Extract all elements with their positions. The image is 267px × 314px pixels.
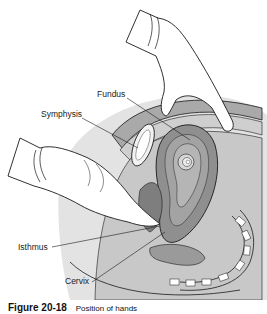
anatomical-illustration: Fundus Symphysis Isthmus Cervix Figure 2… [0, 0, 267, 314]
bimanual-exam-drawing [0, 0, 267, 300]
caption-number: Figure 20-18 [8, 302, 67, 313]
label-cervix: Cervix [65, 277, 89, 286]
figure-caption: Figure 20-18 Position of hands [8, 303, 137, 313]
label-isthmus: Isthmus [18, 243, 48, 252]
label-fundus: Fundus [97, 90, 125, 99]
caption-text: Position of hands [76, 304, 137, 313]
label-symphysis: Symphysis [41, 110, 82, 119]
